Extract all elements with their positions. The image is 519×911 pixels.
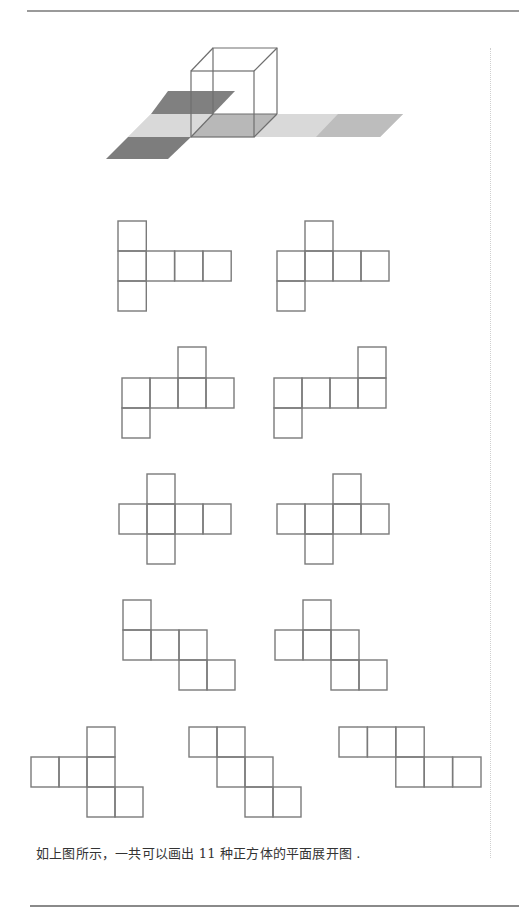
cube-nets-figure [0, 0, 519, 911]
cube-net-1 [118, 221, 231, 311]
cube-net-7 [123, 600, 235, 690]
cube-net-10 [189, 727, 301, 817]
cube-net-8 [275, 600, 387, 690]
caption-text: 如上图所示，一共可以画出 11 种正方体的平面展开图 . [36, 843, 361, 862]
cube-net-6 [277, 474, 389, 564]
cube-net-9 [31, 727, 143, 817]
cube-net-3 [122, 347, 234, 438]
cube-net-4 [274, 347, 386, 438]
cube-net-11 [339, 727, 481, 787]
cube-net-5 [119, 474, 231, 564]
cube-net-2 [277, 221, 389, 311]
cube-unfolding-illustration [106, 48, 403, 159]
bottom-rule [30, 905, 519, 907]
